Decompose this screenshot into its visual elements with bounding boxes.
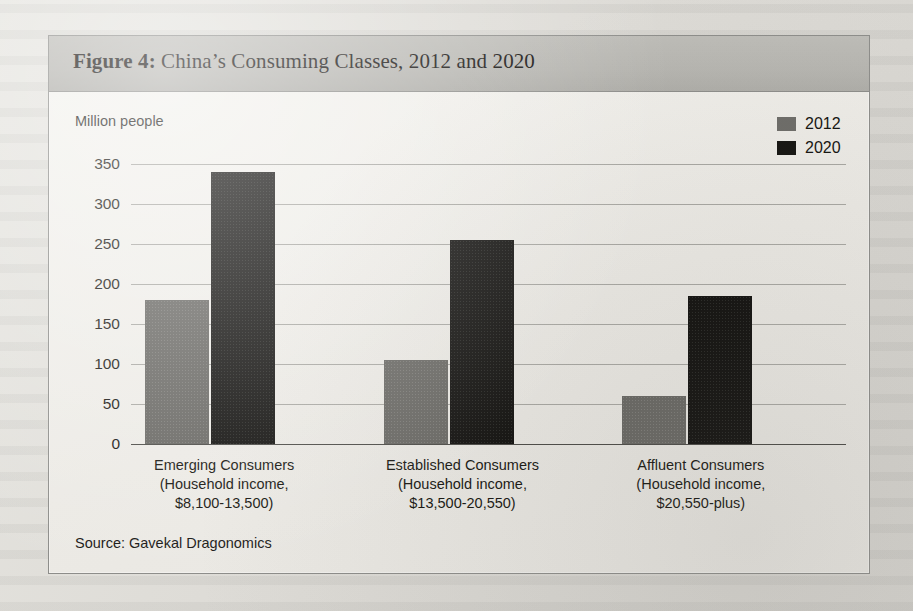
bar-2020-1 xyxy=(211,172,275,444)
category-label-line: Emerging Consumers xyxy=(105,456,343,475)
y-axis-tick-label: 350 xyxy=(94,155,120,173)
legend-swatch-icon xyxy=(777,141,796,155)
legend-swatch-icon xyxy=(777,117,796,131)
chart-legend: 20122020 xyxy=(777,112,847,160)
figure-header-bar: Figure 4: China’s Consuming Classes, 201… xyxy=(49,36,869,92)
figure-container: Figure 4: China’s Consuming Classes, 201… xyxy=(48,35,870,574)
y-axis-title: Million people xyxy=(75,113,164,129)
category-label-3: Affluent Consumers(Household income,$20,… xyxy=(582,456,820,513)
y-axis-tick-label: 200 xyxy=(94,275,120,293)
paper-background: Figure 4: China’s Consuming Classes, 201… xyxy=(0,0,913,611)
bar-group-container xyxy=(131,164,846,444)
category-label-line: Affluent Consumers xyxy=(582,456,820,475)
legend-item-2020: 2020 xyxy=(777,136,847,160)
figure-title: Figure 4: China’s Consuming Classes, 201… xyxy=(73,49,535,74)
y-axis-tick-label: 250 xyxy=(94,235,120,253)
y-axis-tick-label: 150 xyxy=(94,315,120,333)
legend-label: 2012 xyxy=(805,115,847,133)
y-axis-tick-label: 100 xyxy=(94,355,120,373)
bar-2012-2 xyxy=(384,360,448,444)
legend-item-2012: 2012 xyxy=(777,112,847,136)
figure-title-text: China’s Consuming Classes, 2012 and 2020 xyxy=(156,49,535,73)
category-label-line: (Household income, xyxy=(105,475,343,494)
category-label-line: $8,100-13,500) xyxy=(105,494,343,513)
bar-2020-3 xyxy=(688,296,752,444)
y-axis-tick-label: 0 xyxy=(111,435,120,453)
legend-label: 2020 xyxy=(805,139,847,157)
category-label-line: Established Consumers xyxy=(343,456,581,475)
gridline-0: 0 xyxy=(131,444,846,445)
y-axis-tick-label: 300 xyxy=(94,195,120,213)
category-label-line: $13,500-20,550) xyxy=(343,494,581,513)
bar-2012-3 xyxy=(622,396,686,444)
category-label-2: Established Consumers(Household income,$… xyxy=(343,456,581,513)
category-label-line: (Household income, xyxy=(582,475,820,494)
bar-2020-2 xyxy=(450,240,514,444)
figure-title-prefix: Figure 4: xyxy=(73,49,156,73)
category-label-line: (Household income, xyxy=(343,475,581,494)
category-label-line: $20,550-plus) xyxy=(582,494,820,513)
source-note: Source: Gavekal Dragonomics xyxy=(75,535,272,551)
category-label-1: Emerging Consumers(Household income,$8,1… xyxy=(105,456,343,513)
bar-2012-1 xyxy=(145,300,209,444)
y-axis-tick-label: 50 xyxy=(103,395,120,413)
plot-area: 050100150200250300350 xyxy=(131,164,846,444)
